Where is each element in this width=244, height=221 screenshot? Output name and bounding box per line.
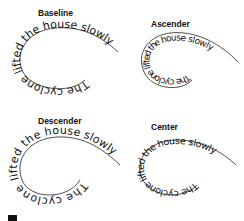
- path-text: The cyclone lifted the house slowly: [7, 124, 120, 208]
- text-on-path-diagram: The cyclone lifted the house slowly: [0, 110, 122, 221]
- panel-descender: Descender The cyclone lifted the house s…: [0, 110, 122, 220]
- text-on-path-diagram: The cyclone lifted the house slowly: [0, 0, 122, 110]
- text-on-path-diagram: The cyclone lifted the house slowly: [122, 0, 244, 110]
- path-text: The cyclone lifted the house slowly: [134, 134, 219, 200]
- path-text: The cyclone lifted the house slowly: [141, 33, 216, 88]
- panel-baseline: Baseline The cyclone lifted the house sl…: [0, 0, 122, 110]
- panel-ascender: Ascender The cyclone lifted the house sl…: [122, 0, 244, 110]
- text-on-path-diagram: The cyclone lifted the house slowly: [122, 110, 244, 221]
- path-text: The cyclone lifted the house slowly: [10, 18, 117, 99]
- panel-center: Center The cyclone lifted the house slow…: [122, 110, 244, 220]
- black-square-marker: [8, 215, 17, 221]
